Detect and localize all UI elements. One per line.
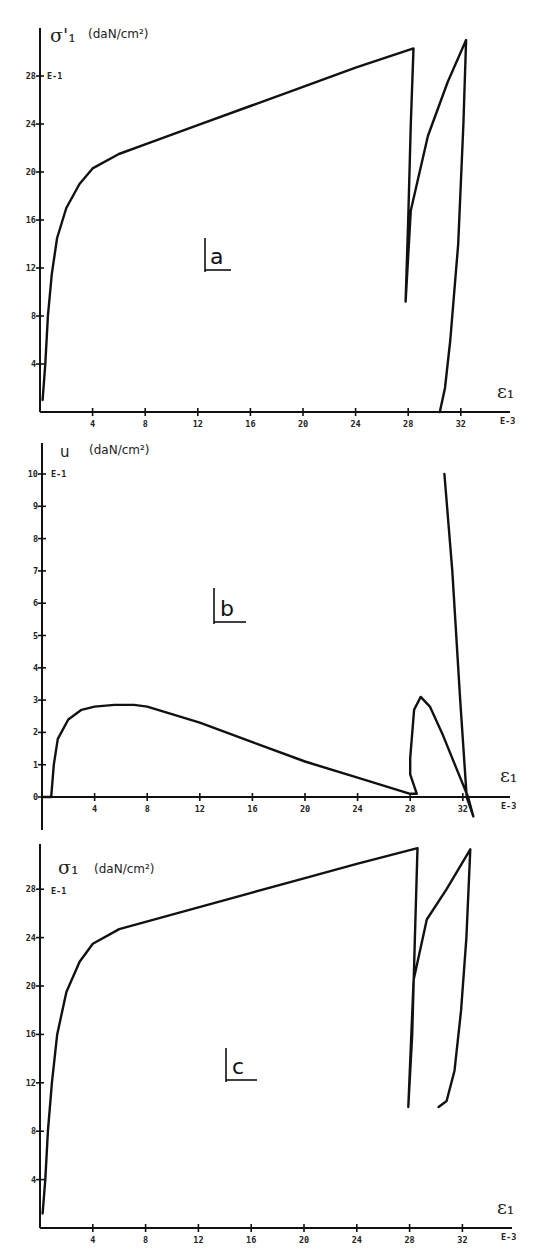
panel-c-x-exponent: E-3 [501, 1232, 516, 1242]
svg-text:1: 1 [33, 760, 38, 770]
svg-text:12: 12 [26, 263, 36, 273]
svg-text:c: c [232, 1054, 244, 1079]
svg-text:4: 4 [31, 359, 36, 369]
svg-text:16: 16 [26, 215, 36, 225]
panel-b-chart: 012345678910 48121620242832 u (daN/cm²) … [28, 443, 518, 830]
svg-text:0: 0 [33, 792, 38, 802]
svg-text:12: 12 [193, 419, 203, 429]
svg-text:8: 8 [145, 804, 150, 814]
svg-text:32: 32 [456, 419, 466, 429]
svg-text:16: 16 [245, 419, 255, 429]
svg-text:4: 4 [33, 663, 38, 673]
svg-text:16: 16 [246, 1235, 256, 1245]
svg-text:28: 28 [403, 419, 413, 429]
svg-text:9: 9 [33, 501, 38, 511]
svg-text:28: 28 [405, 804, 415, 814]
panel-a-y-unit: (daN/cm²) [88, 27, 148, 41]
svg-text:8: 8 [31, 1126, 36, 1136]
svg-text:7: 7 [33, 566, 38, 576]
svg-text:24: 24 [350, 419, 360, 429]
svg-text:16: 16 [26, 1029, 36, 1039]
panel-c-y-unit: (daN/cm²) [94, 862, 154, 876]
svg-text:24: 24 [352, 804, 362, 814]
panel-c-y-ticks: 481216202428 [26, 884, 44, 1184]
svg-text:8: 8 [31, 311, 36, 321]
panel-a-stress-curve [43, 40, 467, 412]
panel-b-y-symbol: u [60, 443, 70, 461]
panel-a-y-exponent: E-1 [47, 71, 62, 81]
panel-c-stress-curve [43, 848, 471, 1213]
panel-b-letter-label: b [214, 588, 246, 624]
svg-text:8: 8 [33, 534, 38, 544]
svg-text:4: 4 [92, 804, 97, 814]
panel-a-y-ticks: 481216202428 [26, 71, 44, 369]
svg-text:12: 12 [193, 1235, 203, 1245]
panel-b-x-exponent: E-3 [501, 801, 516, 811]
svg-text:24: 24 [352, 1235, 362, 1245]
panel-c-y-exponent: E-1 [51, 886, 66, 896]
svg-text:28: 28 [26, 884, 36, 894]
svg-text:32: 32 [458, 804, 468, 814]
svg-text:6: 6 [33, 598, 38, 608]
svg-text:3: 3 [33, 695, 38, 705]
svg-text:32: 32 [457, 1235, 467, 1245]
svg-text:24: 24 [26, 933, 36, 943]
panel-b-y-exponent: E-1 [51, 469, 66, 479]
panel-c-letter-label: c [226, 1048, 257, 1082]
svg-text:5: 5 [33, 631, 38, 641]
svg-text:28: 28 [404, 1235, 414, 1245]
svg-text:20: 20 [26, 167, 36, 177]
panel-a-y-symbol: σ'₁ [50, 24, 76, 46]
panel-a-x-symbol: ε₁ [497, 380, 514, 402]
panel-b-pore-pressure-curve [42, 474, 473, 816]
svg-text:20: 20 [299, 1235, 309, 1245]
panel-b-x-symbol: ε₁ [500, 764, 517, 786]
svg-text:8: 8 [143, 1235, 148, 1245]
panel-c-y-symbol: σ₁ [58, 856, 79, 878]
svg-text:12: 12 [195, 804, 205, 814]
svg-text:20: 20 [298, 419, 308, 429]
svg-text:12: 12 [26, 1078, 36, 1088]
svg-text:16: 16 [247, 804, 257, 814]
svg-text:10: 10 [28, 469, 38, 479]
panel-c-x-symbol: ε₁ [497, 1196, 514, 1218]
panel-a-letter-label: a [205, 238, 231, 272]
panel-b-y-unit: (daN/cm²) [89, 443, 149, 457]
svg-text:a: a [210, 244, 223, 269]
svg-text:4: 4 [31, 1175, 36, 1185]
panel-a-x-exponent: E-3 [500, 416, 515, 426]
svg-text:4: 4 [90, 1235, 95, 1245]
svg-text:b: b [220, 596, 234, 621]
svg-text:20: 20 [26, 981, 36, 991]
svg-text:24: 24 [26, 119, 36, 129]
svg-text:2: 2 [33, 727, 38, 737]
svg-text:4: 4 [90, 419, 95, 429]
panel-b-y-ticks: 012345678910 [28, 469, 46, 802]
svg-text:8: 8 [143, 419, 148, 429]
svg-text:20: 20 [300, 804, 310, 814]
svg-text:28: 28 [26, 71, 36, 81]
panel-c-chart: 481216202428 48121620242832 σ₁ (daN/cm²)… [26, 844, 517, 1245]
figure-canvas: 481216202428 48121620242832 σ'₁ (daN/cm²… [0, 0, 539, 1258]
panel-a-chart: 481216202428 48121620242832 σ'₁ (daN/cm²… [26, 24, 516, 429]
